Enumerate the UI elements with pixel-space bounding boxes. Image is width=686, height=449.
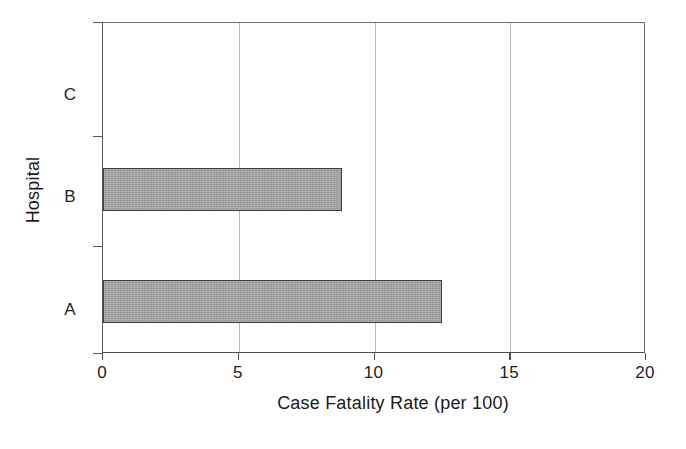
x-tick-mark-15 (509, 353, 510, 360)
x-tick-label-5: 5 (215, 362, 261, 383)
x-tick-label-0: 0 (79, 362, 125, 383)
bar-hospital-a[interactable] (103, 280, 442, 323)
x-tick-mark-10 (374, 353, 375, 360)
gridline-x-15 (510, 23, 511, 352)
x-tick-mark-5 (238, 353, 239, 360)
x-tick-label-10: 10 (351, 362, 397, 383)
x-tick-mark-0 (102, 353, 103, 360)
y-tick-label-b: B (52, 186, 88, 207)
y-tick-mark-upper (93, 136, 102, 137)
bar-chart-figure: Hospital C B A 0 5 10 15 20 Case Fata (0, 0, 686, 449)
x-axis-title: Case Fatality Rate (per 100) (0, 391, 686, 415)
x-tick-label-15: 15 (486, 362, 532, 383)
y-tick-mark-bottom (93, 353, 102, 354)
y-tick-mark-lower (93, 246, 102, 247)
y-tick-label-c: C (52, 84, 88, 105)
plot-area (102, 22, 645, 353)
bar-hospital-b[interactable] (103, 168, 342, 211)
y-axis-title: Hospital (22, 130, 44, 250)
x-tick-label-20: 20 (622, 362, 668, 383)
y-tick-mark-top (93, 22, 102, 23)
x-tick-mark-20 (645, 353, 646, 360)
y-tick-label-a: A (52, 299, 88, 320)
